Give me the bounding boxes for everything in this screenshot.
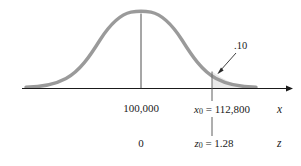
distribution-plot [0,0,301,166]
x-axis-label: x [277,104,282,116]
z-axis-label: z [277,138,281,150]
tail-area-label: .10 [234,41,247,52]
z-origin-label: 0 [138,138,144,149]
x0-value-label: x0 = 112,800 [194,104,250,116]
tail-annotation-leader-line [220,53,236,71]
z0-equals-value: = 1.28 [203,137,234,149]
mean-value-label: 100,000 [123,103,159,114]
z0-value-label: z0 = 1.28 [194,138,233,150]
x-axis-arrowhead [286,85,293,91]
normal-distribution-figure: .10 100,000 x0 = 112,800 x 0 z0 = 1.28 z [0,0,301,166]
x0-equals-value: = 112,800 [203,103,250,115]
